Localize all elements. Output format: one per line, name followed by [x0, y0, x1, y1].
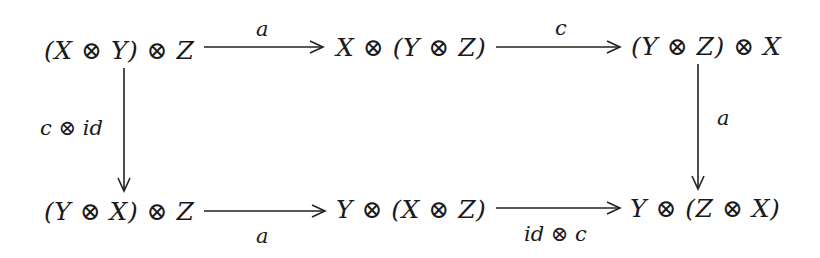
arrow-label-a-top: a	[256, 19, 269, 40]
arrow-top-left-to-bottom-left	[118, 68, 130, 191]
node-top-middle: X ⊗ (Y ⊗ Z)	[336, 35, 486, 60]
arrow-bottom-middle-to-bottom-right	[496, 202, 620, 214]
arrow-label-c-top: c	[555, 18, 567, 39]
arrow-label-a-bottom: a	[256, 226, 269, 247]
node-bottom-left: (Y ⊗ X) ⊗ Z	[44, 199, 194, 224]
commutative-diagram: (X ⊗ Y) ⊗ Z X ⊗ (Y ⊗ Z) (Y ⊗ Z) ⊗ X (Y ⊗…	[0, 0, 820, 258]
arrow-label-id-tensor-c: id ⊗ c	[524, 224, 587, 245]
node-bottom-middle: Y ⊗ (X ⊗ Z)	[336, 197, 486, 222]
node-top-left: (X ⊗ Y) ⊗ Z	[44, 38, 194, 63]
arrow-bottom-left-to-bottom-middle	[204, 205, 325, 217]
arrow-top-right-to-bottom-right	[692, 64, 704, 189]
arrow-label-a-right: a	[717, 108, 730, 129]
arrow-top-middle-to-top-right	[496, 41, 620, 53]
arrow-top-left-to-top-middle	[204, 41, 323, 53]
node-bottom-right: Y ⊗ (Z ⊗ X)	[630, 196, 780, 221]
node-top-right: (Y ⊗ Z) ⊗ X	[631, 34, 781, 59]
arrow-label-c-tensor-id: c ⊗ id	[40, 118, 103, 139]
